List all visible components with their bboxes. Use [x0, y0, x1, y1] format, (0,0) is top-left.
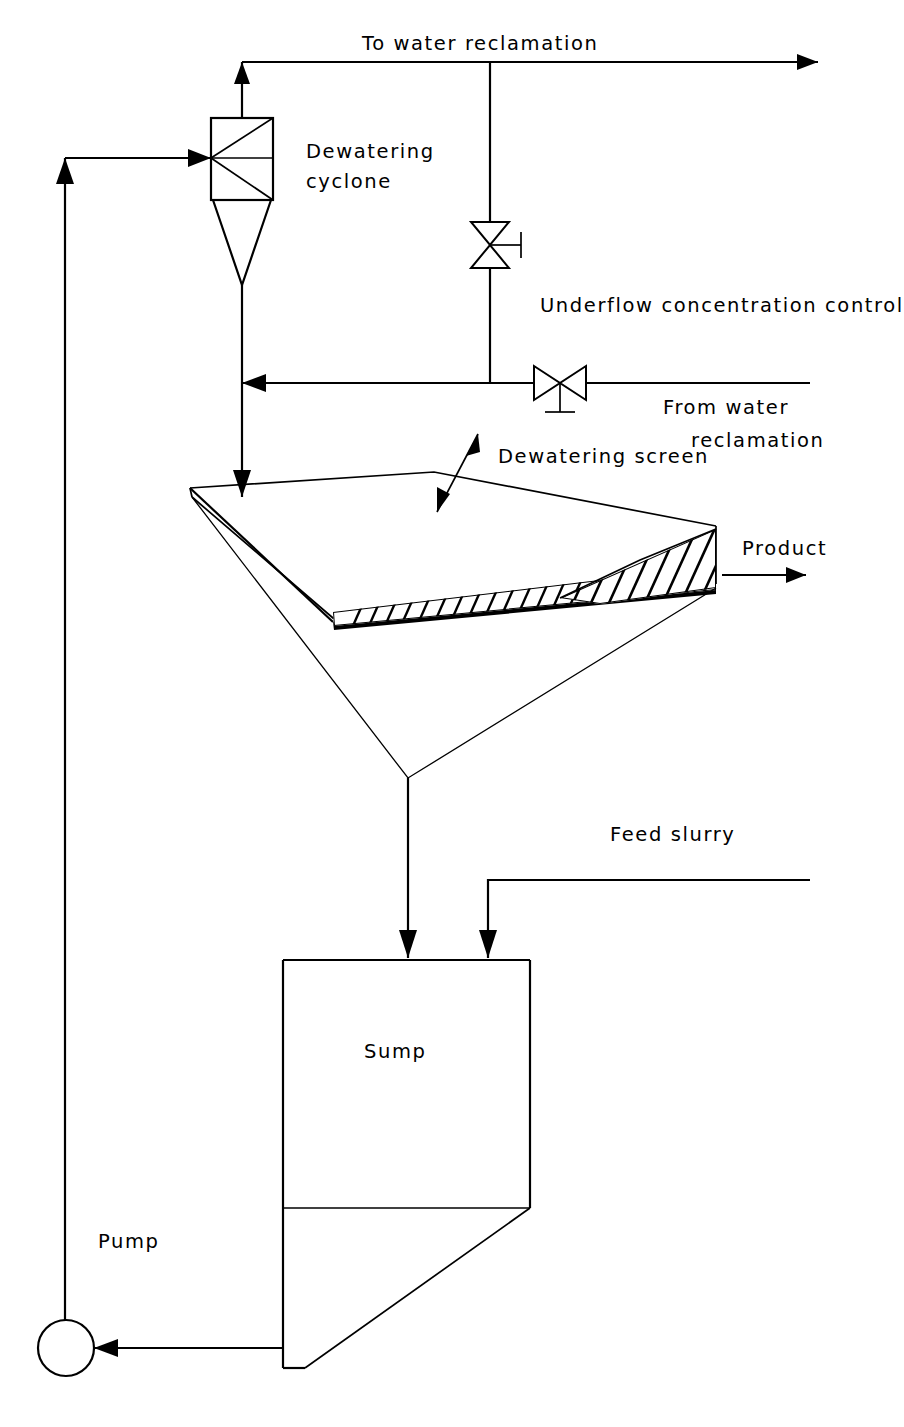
process-flow-diagram: To water reclamation Dewatering cyclone … [0, 0, 904, 1427]
cyclone-feed-arrowhead-icon [188, 149, 211, 167]
label-dewatering-cyclone-line1: Dewatering [306, 140, 435, 163]
valve-vertical-upper-triangle [471, 222, 509, 245]
dewatering-cyclone [65, 118, 273, 285]
cyclone-overflow-arrowhead-icon [234, 62, 250, 84]
label-feed-slurry: Feed slurry [610, 823, 736, 846]
pump [38, 1320, 94, 1376]
product-arrowhead-icon [786, 567, 806, 583]
label-sump: Sump [364, 1040, 427, 1063]
pump-suction-arrowhead-icon [94, 1339, 118, 1357]
stream-sump-suction [94, 1339, 283, 1357]
feed-slurry-arrowhead-icon [479, 930, 497, 958]
hopper-walls [192, 497, 716, 778]
to-water-reclamation-arrowhead-icon [797, 54, 818, 70]
label-from-water-line1: From water [663, 396, 789, 419]
flowsheet-canvas: To water reclamation Dewatering cyclone … [0, 0, 904, 1427]
screen-underflow-arrowhead-icon [399, 930, 417, 958]
sump-sloped-bottom-wall [305, 1208, 530, 1368]
valve-horizontal-left-triangle [534, 366, 560, 400]
screen-bed-hatch-discharge [520, 460, 800, 680]
cyclone-internal-line-lower [211, 158, 273, 200]
valve-horizontal-right-triangle [560, 366, 586, 400]
stream-product [722, 567, 806, 583]
label-from-water-line2: reclamation [691, 429, 825, 452]
stream-to-water-reclamation [234, 54, 818, 118]
label-dewatering-cyclone-line2: cyclone [306, 170, 392, 193]
vibration-arrowhead-up-icon [466, 434, 480, 456]
label-dewatering-screen: Dewatering screen [498, 445, 709, 468]
feed-slurry-line [488, 880, 810, 958]
stream-feed-slurry [479, 880, 810, 958]
label-to-water-reclamation: To water reclamation [361, 32, 598, 55]
cyclone-internal-line-upper [211, 118, 273, 158]
stream-from-water-reclamation [242, 374, 810, 392]
label-product: Product [742, 537, 827, 560]
stream-pump-discharge [56, 158, 74, 1320]
label-pump: Pump [98, 1230, 160, 1253]
label-underflow-concentration-control: Underflow concentration control [540, 294, 904, 317]
sump [283, 960, 530, 1368]
stream-cyclone-underflow [233, 285, 251, 497]
underflow-concentration-control-valve[interactable] [471, 222, 521, 268]
water-supply-valve[interactable] [534, 366, 586, 412]
screen-left-side-rail [190, 488, 333, 622]
valve-vertical-lower-triangle [471, 245, 509, 268]
pump-body-icon [38, 1320, 94, 1376]
pump-discharge-arrowhead-icon [56, 158, 74, 184]
screen-discharge-hopper [192, 497, 716, 778]
from-water-arrowhead-icon [242, 374, 266, 392]
dewatering-screen [190, 434, 800, 700]
stream-screen-underflow [399, 778, 417, 958]
cyclone-body [211, 118, 273, 200]
cyclone-cone [213, 200, 271, 285]
